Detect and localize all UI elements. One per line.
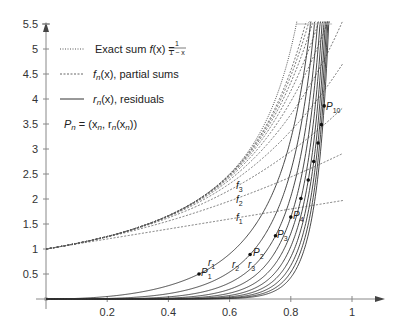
y-tick-label: 1 [32, 243, 38, 255]
y-tick-label: 1.5 [23, 218, 38, 230]
y-tick-label: 4 [32, 93, 38, 105]
label-p10: P10 [326, 101, 341, 114]
residual-curve [46, 22, 324, 300]
legend: Exact sum f(x) = 1 1 − x fn(x), partial … [60, 40, 186, 132]
y-tick-label: 0.5 [23, 268, 38, 280]
legend-partial-label: fn(x), partial sums [93, 68, 179, 82]
x-tick-label: 0.6 [222, 306, 237, 318]
legend-frac-den: 1 − x [169, 49, 185, 56]
y-tick-label: 2 [32, 193, 38, 205]
y-tick-label: 3 [32, 143, 38, 155]
point-marker [299, 197, 303, 201]
point-marker [320, 123, 324, 127]
x-tick-label: 1 [349, 306, 355, 318]
label-f3: f3 [236, 180, 243, 193]
residual-curve [46, 22, 323, 300]
label-p2: P2 [253, 247, 264, 260]
label-r1: r1 [208, 257, 215, 270]
y-tick-label: 4.5 [23, 68, 38, 80]
y-tick-label: 5.5 [23, 18, 38, 30]
partial-sum-curve [46, 22, 328, 250]
legend-exact-label: Exact sum f(x) = [95, 43, 175, 55]
residual-curve [46, 22, 315, 300]
legend-point-note: Pn = (xn, rn(xn)) [64, 118, 137, 132]
point-marker [316, 141, 320, 145]
x-tick-label: 0.4 [161, 306, 176, 318]
legend-frac-num: 1 [175, 40, 179, 47]
x-tick-label: 0.2 [100, 306, 115, 318]
point-marker [312, 160, 316, 164]
chart-canvas: 0.20.40.60.810.511.522.533.544.555.5 f1f… [0, 0, 400, 329]
residual-curve [46, 22, 318, 300]
x-tick-label: 0.8 [283, 306, 298, 318]
label-p1: P1 [201, 267, 212, 280]
y-tick-label: 5 [32, 43, 38, 55]
y-tick-label: 3.5 [23, 118, 38, 130]
partial-sum-curve [46, 64, 343, 249]
residual-curve [46, 22, 326, 300]
label-f2: f2 [236, 194, 243, 207]
curves [46, 22, 343, 300]
point-marker [248, 253, 252, 257]
label-f1: f1 [236, 212, 243, 225]
y-tick-label: 2.5 [23, 168, 38, 180]
legend-residual-label: rn(x), residuals [93, 93, 165, 107]
x-axis-arrow-icon [375, 296, 385, 302]
series-chart: 0.20.40.60.810.511.522.533.544.555.5 f1f… [0, 0, 400, 329]
point-marker [306, 178, 310, 182]
